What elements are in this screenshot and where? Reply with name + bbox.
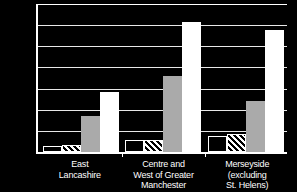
- bar: [208, 136, 227, 152]
- x-axis-category-label: Centre and West of Greater Manchester: [122, 159, 206, 191]
- bar-group: [122, 4, 204, 152]
- bar-group: [40, 4, 122, 152]
- bar: [100, 92, 119, 152]
- plot-area: 35,00030,00025,00020,00015,00010,0005,00…: [36, 4, 287, 154]
- x-axis-separator-tick: [122, 152, 123, 157]
- bar: [182, 22, 201, 152]
- bar-group: [205, 4, 287, 152]
- bar-cluster: [43, 4, 119, 152]
- bar-cluster: [125, 4, 201, 152]
- bar-cluster: [208, 4, 284, 152]
- plot-inner: 35,00030,00025,00020,00015,00010,0005,00…: [38, 4, 287, 152]
- bar: [227, 134, 246, 152]
- bar: [144, 140, 163, 152]
- x-axis-category-label: East Lancashire: [38, 159, 122, 191]
- bar: [62, 145, 81, 152]
- x-axis-separator-tick: [205, 152, 206, 157]
- bar-chart: 35,00030,00025,00020,00015,00010,0005,00…: [0, 0, 297, 192]
- x-axis-category-labels: East LancashireCentre and West of Greate…: [38, 159, 289, 191]
- bar-groups: [40, 4, 287, 152]
- bar: [81, 116, 100, 152]
- x-axis-category-label: Merseyside (excluding St. Helens): [205, 159, 289, 191]
- bar: [246, 101, 265, 152]
- bar: [43, 146, 62, 152]
- bar: [163, 76, 182, 152]
- bar: [265, 30, 284, 152]
- bar: [125, 140, 144, 152]
